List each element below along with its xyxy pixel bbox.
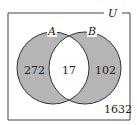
intersection-value: 17 — [62, 64, 76, 77]
set-b-label: B — [87, 25, 96, 38]
set-a-label: A — [47, 25, 56, 38]
universe-label: U — [108, 7, 118, 20]
venn-diagram: U A B 272 17 102 1632 — [0, 0, 137, 125]
a-only-value: 272 — [24, 64, 45, 77]
b-only-value: 102 — [95, 64, 116, 77]
outside-value: 1632 — [104, 103, 132, 116]
